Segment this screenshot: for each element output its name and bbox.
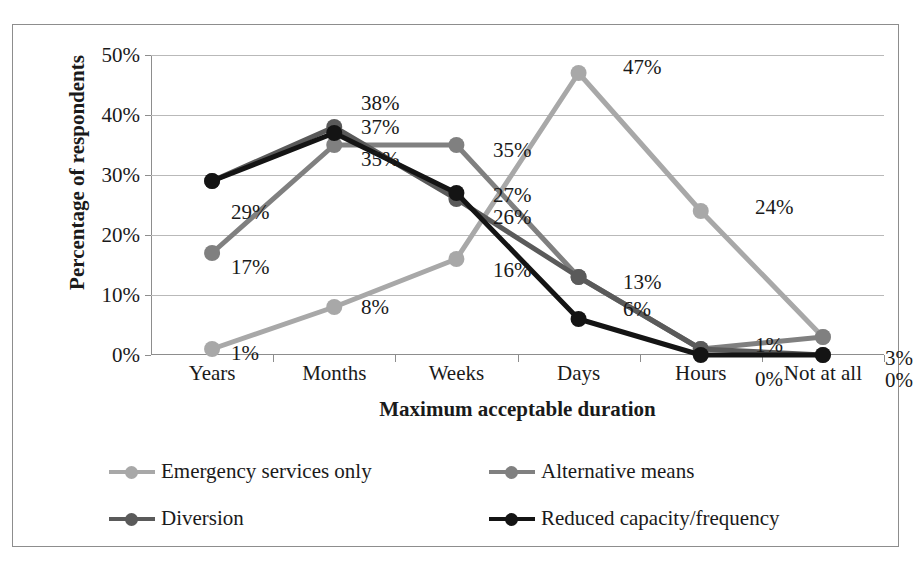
- data-label: 35%: [493, 140, 532, 161]
- data-label: 17%: [231, 257, 270, 278]
- x-tick-mark: [395, 355, 396, 362]
- data-label: 38%: [361, 93, 400, 114]
- data-label: 0%: [885, 370, 913, 391]
- chart-legend: Emergency services onlyAlternative means…: [109, 459, 869, 531]
- y-tick-mark: [145, 355, 151, 356]
- data-label: 37%: [361, 117, 400, 138]
- x-tick-label-hours: Hours: [675, 361, 726, 386]
- legend-label: Emergency services only: [161, 459, 372, 484]
- data-label: 8%: [361, 297, 389, 318]
- data-label: 35%: [361, 149, 400, 170]
- x-tick-mark: [518, 355, 519, 362]
- legend-item-alternative-means[interactable]: Alternative means: [489, 459, 869, 484]
- data-label: 1%: [231, 343, 259, 364]
- x-tick-label-months: Months: [302, 361, 366, 386]
- legend-marker-icon: [489, 464, 535, 480]
- legend-label: Diversion: [161, 506, 244, 531]
- legend-marker-icon: [109, 464, 155, 480]
- legend-label: Reduced capacity/frequency: [541, 506, 779, 531]
- legend-label: Alternative means: [541, 459, 694, 484]
- x-tick-label-days: Days: [557, 361, 600, 386]
- legend-marker-icon: [109, 511, 155, 527]
- legend-item-reduced-capacity-frequency[interactable]: Reduced capacity/frequency: [489, 506, 869, 531]
- data-label: 1%: [755, 335, 783, 356]
- legend-item-emergency-services-only[interactable]: Emergency services only: [109, 459, 489, 484]
- chart-figure: Percentage of respondents 0%10%20%30%40%…: [12, 24, 899, 547]
- data-label: 27%: [493, 185, 532, 206]
- data-label: 0%: [755, 369, 783, 390]
- x-tick-label-years: Years: [189, 361, 236, 386]
- y-tick-label: 20%: [20, 223, 140, 248]
- data-label: 29%: [231, 202, 270, 223]
- y-tick-label: 10%: [20, 283, 140, 308]
- data-label: 24%: [755, 197, 794, 218]
- data-label: 47%: [623, 57, 662, 78]
- y-tick-label: 50%: [20, 43, 140, 68]
- x-tick-label-weeks: Weeks: [429, 361, 484, 386]
- legend-item-diversion[interactable]: Diversion: [109, 506, 489, 531]
- data-label: 3%: [885, 348, 913, 369]
- legend-marker-icon: [489, 511, 535, 527]
- data-label: 6%: [623, 299, 651, 320]
- x-tick-mark: [640, 355, 641, 362]
- data-label: 26%: [493, 207, 532, 228]
- x-tick-mark: [273, 355, 274, 362]
- plot-area: 0%10%20%30%40%50% YearsMonthsWeeksDaysHo…: [151, 55, 884, 355]
- y-tick-label: 30%: [20, 163, 140, 188]
- data-label: 16%: [493, 260, 532, 281]
- y-tick-label: 0%: [20, 343, 140, 368]
- x-tick-label-not-at-all: Not at all: [784, 361, 862, 386]
- x-axis-title: Maximum acceptable duration: [151, 397, 884, 422]
- data-label: 13%: [623, 272, 662, 293]
- y-tick-label: 40%: [20, 103, 140, 128]
